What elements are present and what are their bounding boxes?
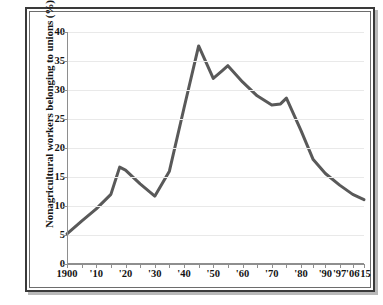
x-tick-label-20: '20	[119, 268, 132, 279]
y-tick-label-15: 15	[39, 172, 65, 182]
x-tick-label-1900: 1900	[57, 268, 78, 279]
y-tick-label-20: 20	[39, 143, 65, 153]
x-tick-mark-1945	[199, 264, 200, 268]
plot-area	[67, 32, 364, 264]
x-tick-mark-1985	[313, 264, 314, 268]
y-tick-label-35: 35	[39, 56, 65, 66]
x-tick-mark-1925	[140, 264, 141, 268]
y-axis-tick-labels: 0510152025303540	[39, 13, 65, 286]
figure: Nonagricultural workers belonging to uni…	[0, 0, 383, 305]
y-axis-line	[67, 32, 68, 264]
x-tick-mark-1905	[82, 264, 83, 268]
gridline-y-20	[67, 148, 364, 149]
gridline-y-15	[67, 177, 364, 178]
x-tick-label-40: '40	[177, 268, 190, 279]
x-tick-label-10: '10	[90, 268, 103, 279]
x-tick-label-97: '97	[333, 268, 346, 279]
x-tick-label-70: '70	[265, 268, 278, 279]
y-tick-label-40: 40	[39, 27, 65, 37]
y-tick-label-10: 10	[39, 201, 65, 211]
x-tick-mark-1965	[257, 264, 258, 268]
plot-wrapper: Nonagricultural workers belonging to uni…	[31, 13, 369, 286]
gridline-y-35	[67, 61, 364, 62]
x-tick-mark-1915	[111, 264, 112, 268]
x-tick-label-50: '50	[207, 268, 220, 279]
y-tick-label-30: 30	[39, 85, 65, 95]
x-tick-label-80: '80	[294, 268, 307, 279]
x-tick-label-60: '60	[236, 268, 249, 279]
x-tick-mark-1955	[228, 264, 229, 268]
gridline-y-10	[67, 206, 364, 207]
x-tick-mark-1975	[286, 264, 287, 268]
gridline-y-40	[67, 32, 364, 33]
gridline-y-30	[67, 90, 364, 91]
x-tick-label-90: '90	[319, 268, 332, 279]
x-tick-label-30: '30	[148, 268, 161, 279]
y-tick-label-25: 25	[39, 114, 65, 124]
x-tick-label-15: '15	[357, 268, 370, 279]
y-tick-label-5: 5	[39, 230, 65, 240]
x-tick-mark-1935	[169, 264, 170, 268]
gridline-y-5	[67, 235, 364, 236]
gridline-y-25	[67, 119, 364, 120]
